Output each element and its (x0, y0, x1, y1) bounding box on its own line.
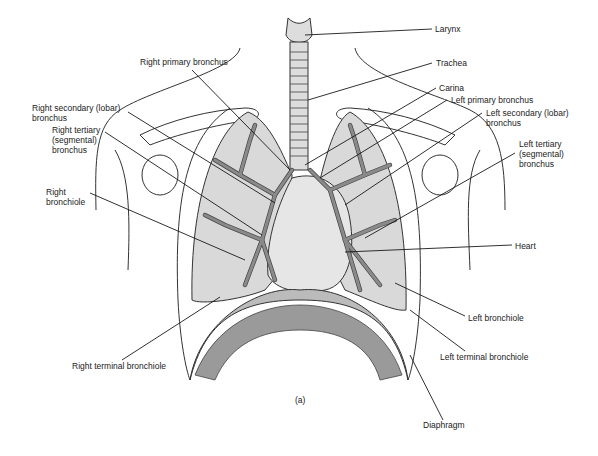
label-right-primary-bronchus: Right primary bronchus (140, 57, 228, 67)
trachea (290, 42, 308, 170)
leader-left-terminal (410, 310, 465, 351)
right-arm-outline (115, 150, 129, 270)
label-diaphragm: Diaphragm (423, 420, 465, 430)
left-humerus-head (422, 155, 458, 195)
leader-trachea (308, 63, 432, 100)
label-left-primary-bronchus: Left primary bronchus (451, 95, 533, 105)
label-left-terminal-bronchiole: Left terminal bronchiole (440, 352, 528, 362)
label-right-secondary-bronchus: Right secondary (lobar) bronchus (32, 103, 120, 123)
label-larynx: Larynx (435, 24, 461, 34)
label-left-tertiary-bronchus: Left tertiary (segmental) bronchus (519, 139, 564, 169)
figure-caption: (a) (295, 395, 305, 405)
label-carina: Carina (439, 83, 464, 93)
left-arm-outline (468, 150, 480, 270)
label-left-secondary-bronchus: Left secondary (lobar) bronchus (486, 108, 569, 128)
right-humerus-head (142, 155, 178, 195)
respiratory-anatomy-illustration (0, 0, 598, 456)
label-left-bronchiole: Left bronchiole (468, 313, 524, 323)
leader-right-terminal (122, 297, 220, 360)
label-right-terminal-bronchiole: Right terminal bronchiole (72, 361, 166, 371)
leader-diaphragm (410, 355, 443, 420)
larynx (286, 18, 312, 43)
label-right-tertiary-bronchus: Right tertiary (segmental) bronchus (52, 125, 100, 155)
label-heart: Heart (515, 241, 536, 251)
label-right-bronchiole: Right bronchiole (46, 187, 85, 207)
leader-larynx (305, 29, 432, 35)
label-trachea: Trachea (436, 58, 467, 68)
